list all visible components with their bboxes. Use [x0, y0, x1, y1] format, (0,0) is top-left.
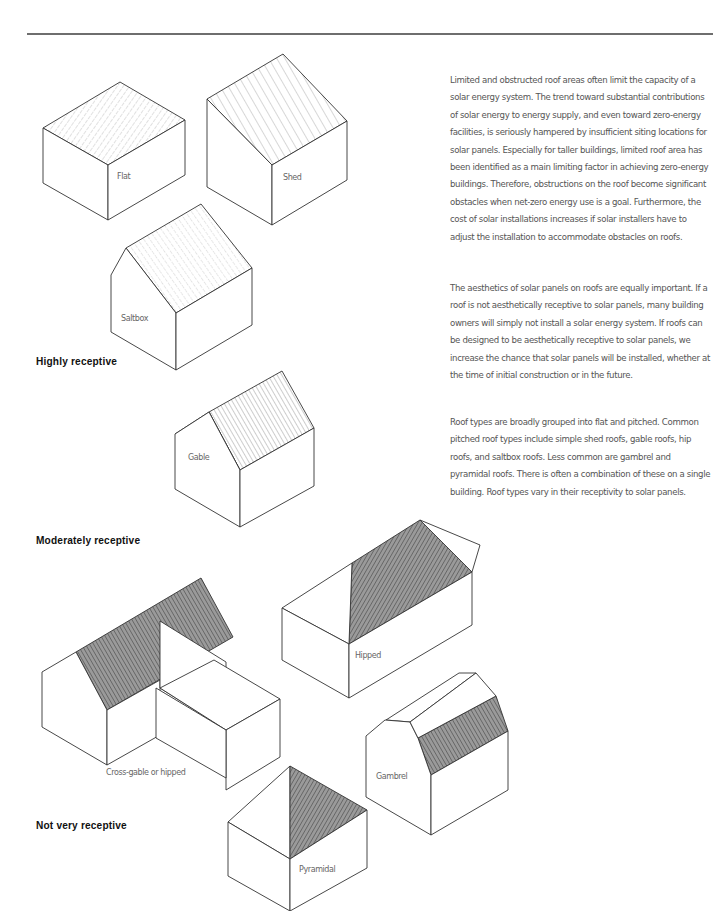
roof-label-shed: Shed	[283, 173, 302, 182]
pyramidal-roof-building	[228, 766, 367, 911]
roof-label-gable: Gable	[188, 453, 209, 462]
paragraph-text: The aesthetics of solar panels on roofs …	[450, 280, 712, 384]
category-moderately-receptive: Moderately receptive	[36, 534, 140, 546]
category-not-very-receptive: Not very receptive	[36, 819, 127, 831]
shed-roof-building	[207, 54, 347, 225]
paragraph-text: Roof types are broadly grouped into flat…	[450, 414, 712, 501]
roof-label-hipped: Hipped	[355, 651, 381, 660]
roof-label-saltbox: Saltbox	[121, 314, 148, 323]
roof-label-pyramidal: Pyramidal	[299, 865, 335, 874]
hipped-roof-building	[282, 520, 480, 698]
gable-roof-building	[175, 371, 314, 527]
cross-gable-roof-building	[42, 578, 280, 790]
roof-label-gambrel: Gambrel	[376, 772, 407, 781]
body-paragraph-3: Roof types are broadly grouped into flat…	[450, 414, 712, 501]
roof-label-cross-gable: Cross-gable or hipped	[106, 768, 185, 777]
body-paragraph-2: The aesthetics of solar panels on roofs …	[450, 280, 712, 384]
saltbox-roof-building	[111, 204, 252, 370]
body-paragraph-1: Limited and obstructed roof areas often …	[450, 72, 712, 246]
gambrel-roof-building	[366, 673, 508, 835]
paragraph-text: Limited and obstructed roof areas often …	[450, 72, 712, 246]
roof-label-flat: Flat	[117, 172, 130, 181]
flat-roof-building	[43, 82, 185, 220]
category-highly-receptive: Highly receptive	[36, 355, 117, 367]
